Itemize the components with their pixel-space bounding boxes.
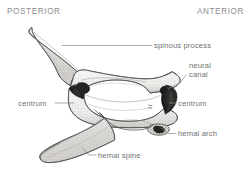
orientation-label-anterior: ANTERIOR [197,8,244,16]
label-spinous-process: spinous process [154,41,211,50]
label-centrum-posterior: centrum [18,99,46,108]
leader-hemal-spine [82,147,97,155]
label-hemal-arch: hemal arch [178,129,217,138]
orientation-label-posterior: POSTERIOR [7,8,61,16]
label-centrum-anterior: centrum [178,99,206,108]
label-hemal-spine: hemal spine [98,151,141,160]
figure-canvas: POSTERIOR ANTERIOR spinous process neura… [0,0,251,174]
leader-neural-canal [168,75,186,89]
leader-hemal-arch [161,128,176,134]
leader-lines [0,0,251,174]
label-neural-canal: neural canal [189,61,211,79]
